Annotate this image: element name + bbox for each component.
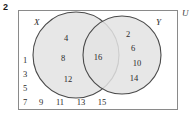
outside-element: 5	[23, 84, 27, 93]
outside-element: 15	[98, 98, 107, 107]
outside-element: 3	[23, 70, 27, 79]
set-x-label: X	[34, 18, 40, 27]
venn-diagram-figure: 2 U X Y 4 8 12 16 2 6 10 14 1 3 5 7 9 11…	[0, 0, 196, 118]
outside-element: 11	[56, 98, 64, 107]
outside-element: 13	[77, 98, 86, 107]
set-x-element: 8	[61, 54, 65, 63]
set-y-element: 10	[133, 59, 142, 68]
universal-set-label: U	[182, 9, 189, 18]
set-y-label: Y	[156, 18, 161, 27]
intersection-element: 16	[94, 53, 103, 62]
set-y-element: 2	[126, 30, 130, 39]
question-number: 2	[3, 3, 8, 12]
outside-element: 9	[39, 98, 43, 107]
set-y-element: 14	[130, 74, 139, 83]
outside-element: 1	[23, 56, 27, 65]
set-x-element: 12	[64, 75, 73, 84]
set-x-element: 4	[64, 34, 68, 43]
outside-element: 7	[23, 98, 27, 107]
set-y-element: 6	[131, 44, 135, 53]
